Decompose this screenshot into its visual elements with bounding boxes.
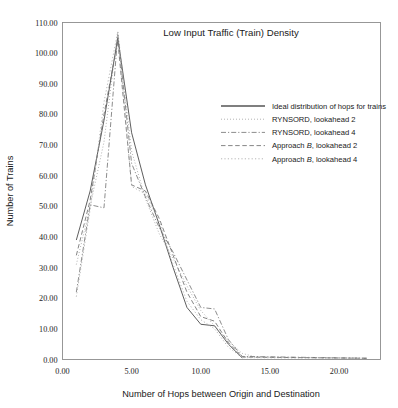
legend-label: Approach B, lookahead 4 xyxy=(272,155,357,164)
y-tick-label: 0.00 xyxy=(43,356,57,365)
y-tick-label: 60.00 xyxy=(39,172,57,181)
x-tick-label: 10.00 xyxy=(192,367,210,376)
y-tick-label: 80.00 xyxy=(39,110,57,119)
chart-background xyxy=(0,0,398,408)
legend-label: Ideal distribution of hops for trains xyxy=(272,102,386,111)
legend-label: RYNSORD, lookahead 2 xyxy=(272,115,355,124)
chart-title: Low Input Traffic (Train) Density xyxy=(163,27,299,38)
chart-figure: 0.0010.0020.0030.0040.0050.0060.0070.008… xyxy=(0,0,398,408)
x-tick-label: 5.00 xyxy=(124,367,138,376)
y-tick-label: 70.00 xyxy=(39,141,57,150)
y-tick-label: 90.00 xyxy=(39,80,57,89)
y-tick-label: 110.00 xyxy=(35,19,57,28)
y-tick-label: 30.00 xyxy=(39,264,57,273)
chart-svg: 0.0010.0020.0030.0040.0050.0060.0070.008… xyxy=(0,0,398,408)
x-tick-label: 15.00 xyxy=(261,367,279,376)
legend-label: Approach B, lookahead 2 xyxy=(272,141,357,150)
y-axis-title: Number of Trains xyxy=(5,155,15,226)
y-tick-label: 100.00 xyxy=(35,49,58,58)
x-tick-label: 20.00 xyxy=(330,367,348,376)
x-tick-label: 0.00 xyxy=(55,367,69,376)
x-axis-title: Number of Hops between Origin and Destin… xyxy=(122,389,320,399)
y-tick-label: 40.00 xyxy=(39,233,57,242)
y-tick-label: 10.00 xyxy=(39,325,57,334)
y-tick-label: 50.00 xyxy=(39,202,57,211)
legend-label: RYNSORD, lookahead 4 xyxy=(272,128,355,137)
y-tick-label: 20.00 xyxy=(39,294,57,303)
